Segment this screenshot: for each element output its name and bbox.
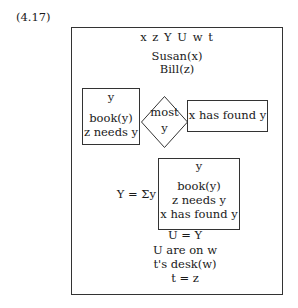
condition-u-on-w: U are on w xyxy=(140,244,230,257)
abstraction-lhs: Y = Σy xyxy=(98,188,156,201)
scope-condition: x has found y xyxy=(187,109,268,122)
condition-desk: t's desk(w) xyxy=(140,258,230,271)
abstraction-universe: y xyxy=(158,160,240,173)
quantifier-variable: y xyxy=(141,122,188,135)
condition-t-equals-z: t = z xyxy=(140,272,230,285)
restrictor-universe: y xyxy=(82,91,140,104)
abstraction-condition-book: book(y) xyxy=(158,180,240,193)
equation-number: (4.17) xyxy=(16,11,51,24)
drs-universe: x z Y U w t xyxy=(71,31,283,44)
abstraction-condition-needs: z needs y xyxy=(158,194,240,207)
quantifier-label: most xyxy=(141,106,188,119)
restrictor-condition-book: book(y) xyxy=(82,112,140,125)
abstraction-condition-found: x has found y xyxy=(158,208,240,221)
restrictor-condition-needs: z needs y xyxy=(82,126,140,139)
condition-u-equals-y: U = Y xyxy=(140,229,230,242)
condition-bill: Bill(z) xyxy=(71,63,283,76)
